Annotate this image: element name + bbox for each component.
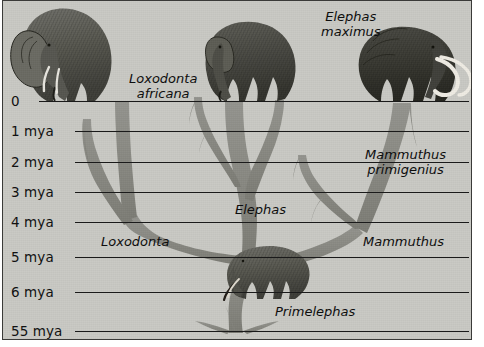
axis-tick-label-1: 1 mya: [11, 123, 54, 139]
taxon-label-line: Elephas: [321, 9, 381, 24]
taxon-label-loxodonta-africana: Loxodontaafricana: [129, 71, 197, 102]
taxon-label-elephas: Elephas: [235, 202, 286, 217]
axis-tick-rule-1: [75, 131, 469, 132]
taxon-label-elephas-maximus: Elephasmaximus: [321, 9, 381, 40]
taxon-label-line: Elephas: [235, 202, 286, 217]
axis-tick-label-0: 0: [11, 93, 20, 109]
taxon-label-line: Loxodonta: [101, 234, 169, 249]
axis-tick-label-7: 55 mya: [11, 323, 62, 339]
asian-elephant-illustration: [205, 22, 295, 101]
axis-tick-label-2: 2 mya: [11, 154, 54, 170]
taxon-label-line: Loxodonta: [129, 71, 197, 86]
taxon-label-line: Primelephas: [275, 304, 355, 319]
axis-tick-label-6: 6 mya: [11, 284, 54, 300]
taxon-label-line: Mammuthus: [363, 234, 444, 249]
taxon-label-line: maximus: [321, 24, 381, 39]
axis-tick-label-3: 3 mya: [11, 184, 54, 200]
axis-tick-rule-3: [75, 192, 469, 193]
taxon-label-mammuthus: Mammuthus: [363, 234, 444, 249]
axis-tick-rule-0: [39, 101, 469, 102]
taxon-label-mammuthus-primigenius: Mammuthusprimigenius: [365, 147, 446, 178]
illustration-plate: 01 mya2 mya3 mya4 mya5 mya6 mya55 mya Lo…: [2, 0, 472, 340]
taxon-label-line: primigenius: [365, 162, 446, 177]
taxon-label-line: africana: [129, 86, 197, 101]
figure-root: 01 mya2 mya3 mya4 mya5 mya6 mya55 mya Lo…: [0, 0, 484, 347]
taxon-label-loxodonta: Loxodonta: [101, 234, 169, 249]
taxon-label-primelephas: Primelephas: [275, 304, 355, 319]
axis-tick-rule-5: [75, 257, 469, 258]
axis-tick-rule-6: [75, 292, 469, 293]
axis-tick-label-5: 5 mya: [11, 249, 54, 265]
axis-tick-rule-7: [75, 331, 469, 332]
axis-tick-rule-4: [75, 222, 469, 223]
african-elephant-illustration: [11, 9, 112, 101]
taxon-label-line: Mammuthus: [365, 147, 446, 162]
axis-tick-label-4: 4 mya: [11, 214, 54, 230]
